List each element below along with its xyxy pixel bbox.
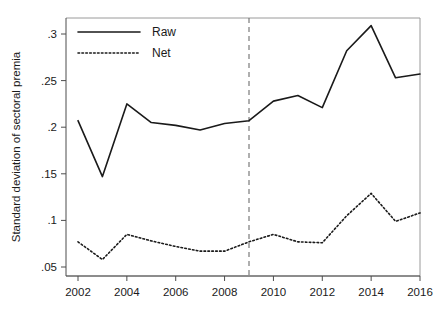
x-tick-label: 2012 [309, 286, 335, 298]
x-axis-ticks: 20022004200620082010201220142016 [65, 276, 433, 298]
x-tick-label: 2010 [261, 286, 287, 298]
y-tick-label: .2 [47, 121, 57, 133]
chart-legend: Raw Net [78, 25, 176, 60]
x-tick-label: 2014 [358, 286, 384, 298]
y-tick-label: .3 [47, 28, 57, 40]
y-tick-label: .25 [41, 75, 57, 87]
x-tick-label: 2016 [407, 286, 433, 298]
y-tick-label: .1 [47, 214, 57, 226]
chart-figure: .05.1.15.2.25.3 200220042006200820102012… [0, 0, 446, 312]
line-chart-svg: .05.1.15.2.25.3 200220042006200820102012… [0, 0, 446, 312]
plot-frame [66, 18, 420, 276]
y-axis-title: Standard deviation of sectoral premia [10, 51, 22, 242]
legend-label-raw: Raw [152, 25, 176, 39]
x-tick-label: 2002 [65, 286, 91, 298]
x-tick-label: 2008 [212, 286, 238, 298]
y-tick-label: .05 [41, 261, 57, 273]
y-tick-label: .15 [41, 168, 57, 180]
x-tick-label: 2006 [163, 286, 189, 298]
legend-label-net: Net [152, 46, 171, 60]
x-tick-label: 2004 [114, 286, 140, 298]
y-axis-ticks: .05.1.15.2.25.3 [41, 28, 66, 273]
